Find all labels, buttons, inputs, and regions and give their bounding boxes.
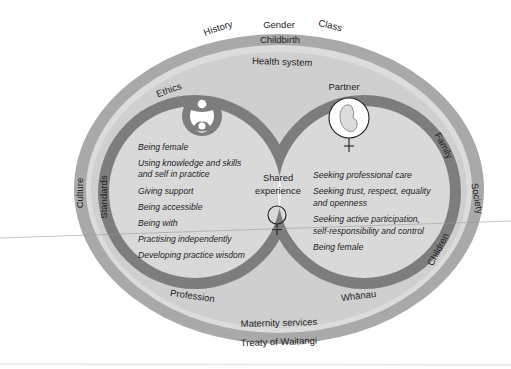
list-item: Practising independently (138, 234, 232, 244)
list-item: Using knowledge and skills (138, 158, 242, 168)
list-item: Seeking professional care (313, 170, 412, 180)
shared-label-line2: experience (255, 185, 301, 196)
shared-label-line1: Shared (263, 172, 293, 183)
label-maternity-services: Maternity services (240, 316, 317, 329)
list-item: Being female (313, 242, 363, 252)
relationship-diagram: History Gender Class Childbirth Treaty o… (0, 0, 511, 369)
label-standards: Standards (98, 175, 109, 219)
list-item: self-responsibility and control (313, 226, 425, 236)
bottom-divider (0, 364, 511, 365)
label-gender: Gender (263, 19, 295, 30)
label-childbirth: Childbirth (260, 34, 300, 45)
list-item: Giving support (138, 186, 194, 196)
list-item: and openness (313, 198, 368, 208)
label-class: Class (318, 17, 344, 33)
list-item: Being with (138, 218, 178, 228)
list-item: and self in practice (138, 169, 210, 179)
list-item: Seeking trust, respect, equality (313, 186, 431, 196)
label-culture: Culture (74, 178, 85, 209)
label-treaty-of-waitangi: Treaty of Waitangi (241, 335, 318, 349)
label-health-system: Health system (252, 55, 313, 68)
midwife-woman-icon (182, 96, 222, 136)
list-item: Being accessible (138, 202, 203, 212)
list-item: Seeking active participation, (313, 214, 420, 224)
list-item: Developing practice wisdom (138, 250, 245, 260)
label-history: History (202, 18, 234, 38)
list-item: Being female (138, 142, 188, 152)
label-partner: Partner (328, 81, 359, 92)
